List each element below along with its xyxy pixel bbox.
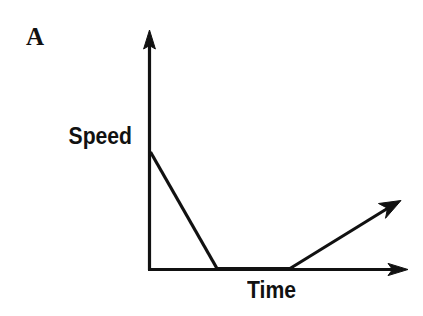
deceleration-segment bbox=[151, 152, 218, 269]
x-axis-label: Time bbox=[247, 279, 296, 302]
axes-group bbox=[144, 30, 408, 276]
speed-time-graph bbox=[0, 0, 423, 316]
data-curve-group bbox=[151, 152, 402, 269]
acceleration-segment bbox=[290, 208, 389, 269]
figure-panel-a: A Speed Time bbox=[0, 0, 423, 316]
y-axis-label: Speed bbox=[69, 125, 133, 148]
acceleration-arrowhead bbox=[379, 201, 402, 219]
